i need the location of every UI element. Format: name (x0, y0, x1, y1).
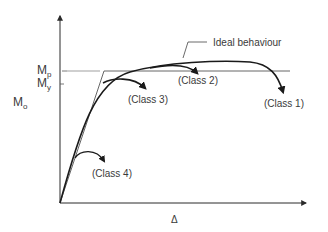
class-2-label: (Class 2) (178, 75, 218, 86)
class-1-curve (60, 61, 283, 203)
class-4-curve (75, 152, 104, 161)
class-3-label: (Class 3) (128, 94, 168, 105)
x-axis-label: Δ (171, 214, 178, 225)
class-2-curve (150, 65, 197, 73)
ideal-behaviour-line (60, 71, 290, 203)
class-1-label: (Class 1) (264, 98, 304, 109)
moment-rotation-diagram: Ideal behaviour (Class 1) (Class 2) (Cla… (0, 0, 328, 232)
class-4-label: (Class 4) (92, 168, 132, 179)
y-axis-label: Mo (13, 95, 28, 111)
ideal-behaviour-leader (183, 42, 207, 58)
ideal-behaviour-label: Ideal behaviour (213, 37, 282, 48)
